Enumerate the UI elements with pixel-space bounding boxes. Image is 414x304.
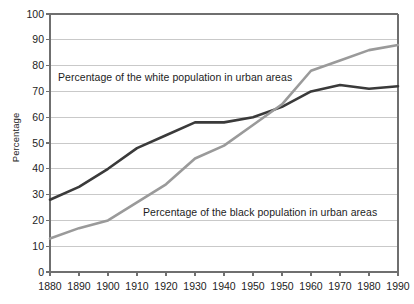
- x-tick-label: 1900: [96, 281, 119, 292]
- x-tick-label: 1880: [38, 281, 61, 292]
- x-tick-label: 1890: [67, 281, 90, 292]
- black-series-label: Percentage of the black population in ur…: [143, 206, 377, 218]
- x-tick-label: 1920: [154, 281, 177, 292]
- x-tick-label: 1980: [357, 281, 380, 292]
- x-tick-label: 1910: [125, 281, 148, 292]
- x-tick-label: 1950: [241, 281, 264, 292]
- chart-container: Percentage 0102030405060708090100 188018…: [0, 0, 414, 304]
- plot-area: [0, 0, 414, 304]
- x-tick-label: 1940: [212, 281, 235, 292]
- x-tick-label: 1990: [386, 281, 409, 292]
- x-tick-label: 1960: [299, 281, 322, 292]
- x-tick-label: 1970: [328, 281, 351, 292]
- x-tick-label: 1950: [270, 281, 293, 292]
- x-tick-label: 1930: [183, 281, 206, 292]
- white-series-label: Percentage of the white population in ur…: [58, 71, 292, 83]
